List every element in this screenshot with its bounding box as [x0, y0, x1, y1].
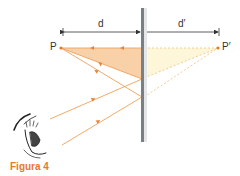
distance-d-arrow — [63, 28, 140, 36]
object-label: P — [50, 42, 57, 52]
plane-mirror — [141, 8, 144, 142]
image-label: P′ — [222, 42, 231, 52]
figure-caption: Figura 4 — [10, 162, 49, 172]
object-point — [59, 46, 62, 49]
image-point — [216, 46, 219, 49]
distance-d-prime-label: d′ — [178, 19, 185, 29]
virtual-image-region — [144, 48, 218, 78]
eye-icon — [14, 114, 46, 158]
distance-d-prime-arrow — [146, 28, 219, 36]
plane-mirror-diagram — [0, 0, 240, 176]
distance-d-label: d — [98, 19, 104, 29]
